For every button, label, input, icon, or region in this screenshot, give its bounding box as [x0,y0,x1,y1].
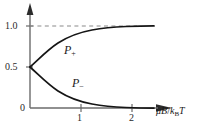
curve-label-p-plus: P+ [64,44,76,58]
curve-label-p-minus: P− [72,77,84,91]
y-tick-label-0-5: 0.5 [5,62,18,72]
x-axis-title: μB/kBT [156,106,185,118]
x-tick-label-2: 2 [129,113,134,123]
y-axis [27,3,34,108]
x-tick-label-1: 1 [77,113,82,123]
magnetization-probability-chart: 1.0 0.5 0 1 2 P+ P− μB/kBT [0,0,198,132]
curve-p-plus [30,26,154,67]
y-tick-label-0: 0 [20,103,25,113]
x-axis-title-t: T [179,105,185,116]
curve-p-minus [30,67,154,108]
curve-label-p-plus-sub: + [71,49,76,58]
curve-label-p-minus-sub: − [79,82,84,91]
y-tick-label-1: 1.0 [5,21,18,31]
